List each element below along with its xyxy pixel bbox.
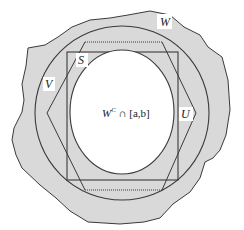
label-w-group: W [157,14,172,29]
label-u-group: U [179,107,193,121]
label-center-set: WC ∩ [a,b] [102,106,150,119]
label-w: W [160,15,171,29]
label-v-group: V [43,77,55,91]
sets-diagram: W V S U WC ∩ [a,b] [0,0,244,230]
label-center-rest: ∩ [a,b] [116,107,150,119]
label-u: U [181,107,191,121]
label-s-group: S [76,53,88,67]
label-s: S [78,53,84,67]
